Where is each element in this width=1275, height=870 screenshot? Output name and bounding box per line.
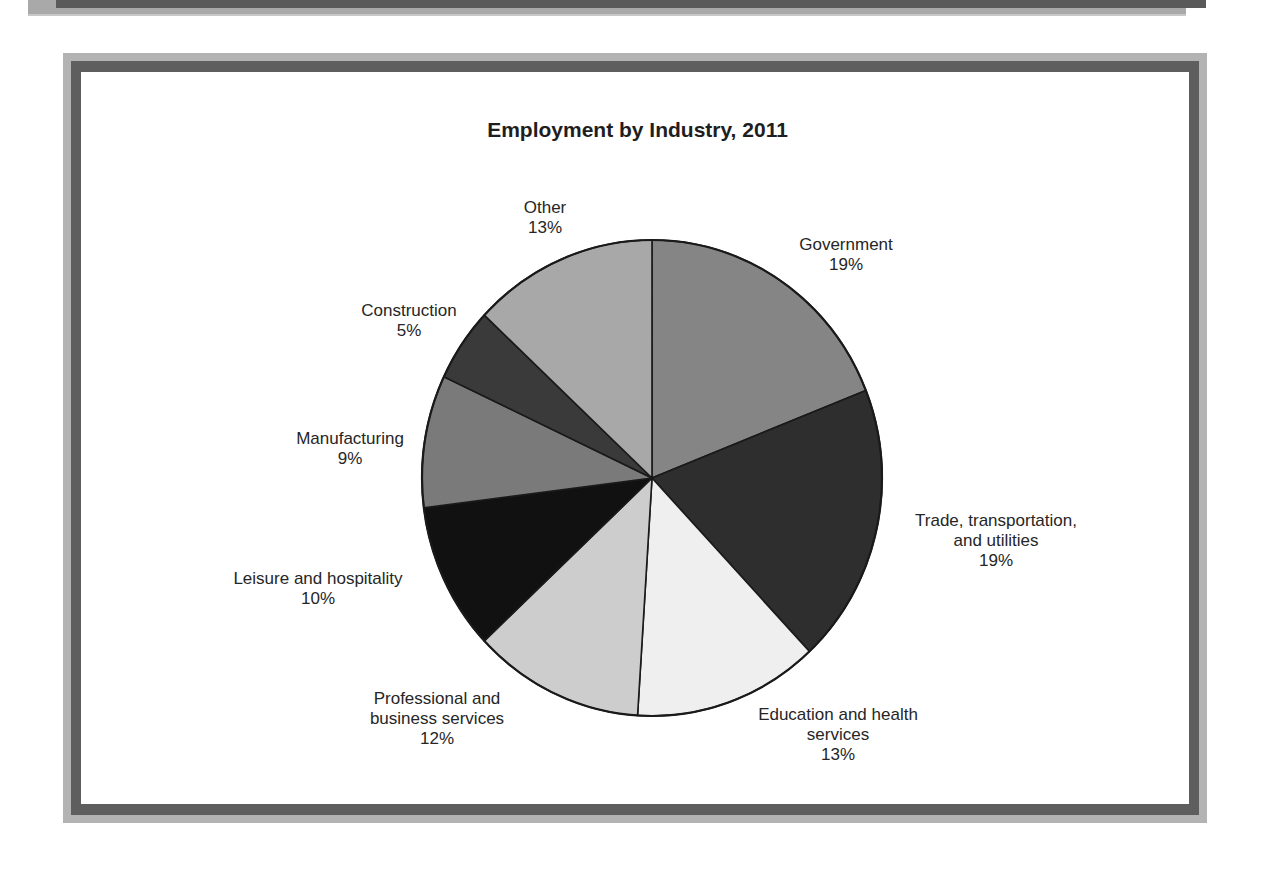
slice-percentage: 12% [370, 729, 504, 749]
slice-label-manufacturing: Manufacturing9% [296, 429, 404, 469]
slice-label-text: Trade, transportation, [915, 511, 1077, 531]
slice-label-text: services [758, 725, 918, 745]
slice-label-text: Education and health [758, 705, 918, 725]
slice-percentage: 13% [524, 218, 567, 238]
slice-label-text: Manufacturing [296, 429, 404, 449]
slice-label-text: Construction [361, 301, 456, 321]
slice-label-professional-and-business-services: Professional andbusiness services12% [370, 689, 504, 749]
slice-percentage: 19% [915, 551, 1077, 571]
slice-percentage: 13% [758, 745, 918, 765]
slice-percentage: 10% [233, 589, 402, 609]
slice-label-government: Government19% [799, 235, 893, 275]
slice-label-construction: Construction5% [361, 301, 456, 341]
slice-percentage: 5% [361, 321, 456, 341]
slice-label-text: and utilities [915, 531, 1077, 551]
slice-label-trade-transportation-and-utilities: Trade, transportation,and utilities19% [915, 511, 1077, 571]
slice-label-text: Professional and [370, 689, 504, 709]
slice-label-other: Other13% [524, 198, 567, 238]
slice-label-leisure-and-hospitality: Leisure and hospitality10% [233, 569, 402, 609]
slice-label-text: Other [524, 198, 567, 218]
pie-chart [0, 0, 1275, 870]
slice-label-text: Government [799, 235, 893, 255]
slice-percentage: 9% [296, 449, 404, 469]
slice-percentage: 19% [799, 255, 893, 275]
slice-label-text: business services [370, 709, 504, 729]
slice-label-text: Leisure and hospitality [233, 569, 402, 589]
slice-label-education-and-health-services: Education and healthservices13% [758, 705, 918, 765]
